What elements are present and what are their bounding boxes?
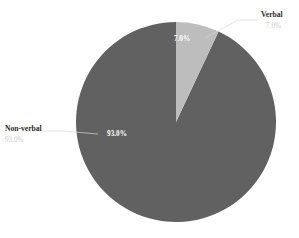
slice-value-label-non-verbal: 93.0% (107, 130, 127, 138)
callout-label-verbal: Verbal (261, 10, 283, 19)
callout-percent-verbal: 7.0% (266, 22, 281, 30)
pie-slice-non-verbal[interactable] (76, 22, 276, 222)
pie-chart-canvas: 7.0% 93.0% Verbal 7.0% Non-verbal 93.0% (0, 0, 299, 238)
callout-percent-non-verbal: 93.0% (5, 136, 24, 144)
pie-chart-figure: 7.0% 93.0% Verbal 7.0% Non-verbal 93.0% (0, 0, 299, 238)
slice-value-label-verbal: 7.0% (174, 35, 190, 43)
callout-label-non-verbal: Non-verbal (5, 124, 42, 133)
